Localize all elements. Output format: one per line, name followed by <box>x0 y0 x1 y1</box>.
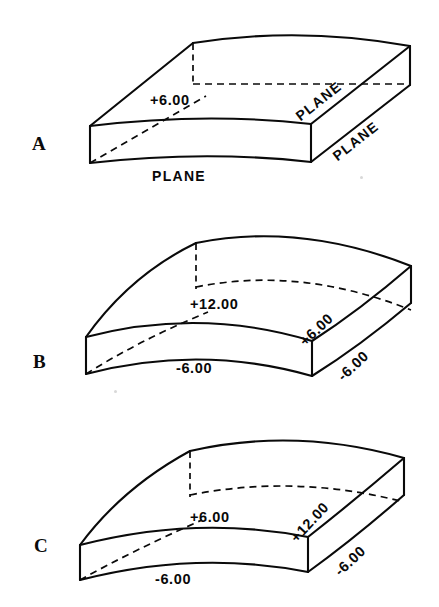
scan-speck-b <box>114 390 117 393</box>
scan-speck-a <box>360 176 363 179</box>
panel-c-drawing <box>0 400 439 600</box>
panel-a-bottom-plane-label: PLANE <box>152 169 206 183</box>
figure-root: A +6.00 PLANE PLANE PLANE <box>0 0 439 607</box>
panel-a: A +6.00 PLANE PLANE PLANE <box>0 0 439 200</box>
panel-b-top-meridian-power: +12.00 <box>190 297 238 312</box>
panel-b: B +12.00 +6.00 -6.00 -6.00 <box>0 200 439 400</box>
panel-c-top-meridian-power: +6.00 <box>190 510 230 525</box>
panel-c: C +6.00 +12.00 -6.00 -6.00 <box>0 400 439 600</box>
panel-b-bottom-meridian-power: -6.00 <box>176 361 212 376</box>
panel-c-bottom-meridian-power: -6.00 <box>155 572 191 587</box>
panel-a-drawing <box>0 0 439 200</box>
panel-a-top-meridian-power: +6.00 <box>150 93 190 108</box>
